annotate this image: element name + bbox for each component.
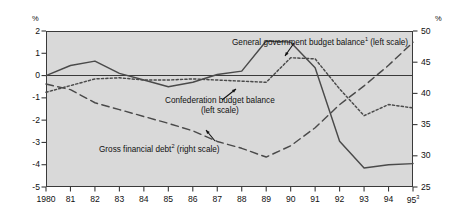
general-government-annotation: General government budget balance1 (left… <box>232 36 408 48</box>
right-tick-label: 30 <box>421 150 447 160</box>
confederation-annotation-line2: (left scale) <box>165 106 275 116</box>
left-tick-label: 0 <box>16 70 40 80</box>
left-tick-label: -4 <box>16 159 40 169</box>
left-tick-label: -1 <box>16 92 40 102</box>
confederation-annotation-line1: Confederation budget balance <box>165 96 275 106</box>
right-tick-label: 50 <box>421 26 447 36</box>
left-tick-label: -5 <box>16 182 40 192</box>
left-tick-label: -2 <box>16 115 40 125</box>
x-tick-label: 953 <box>395 194 431 205</box>
left-tick-label: -3 <box>16 137 40 147</box>
right-tick-label: 35 <box>421 119 447 129</box>
gross-financial-debt-annotation: Gross financial debt2 (right scale) <box>99 143 220 155</box>
right-tick-label: 25 <box>421 182 447 192</box>
confederation-annotation: Confederation budget balance(left scale) <box>165 96 275 117</box>
chart-root: % % 210-1-2-3-4-5 504540353025 198081828… <box>0 0 474 223</box>
right-tick-label: 45 <box>421 57 447 67</box>
left-tick-label: 2 <box>16 26 40 36</box>
right-tick-label: 40 <box>421 88 447 98</box>
left-tick-label: 1 <box>16 48 40 58</box>
